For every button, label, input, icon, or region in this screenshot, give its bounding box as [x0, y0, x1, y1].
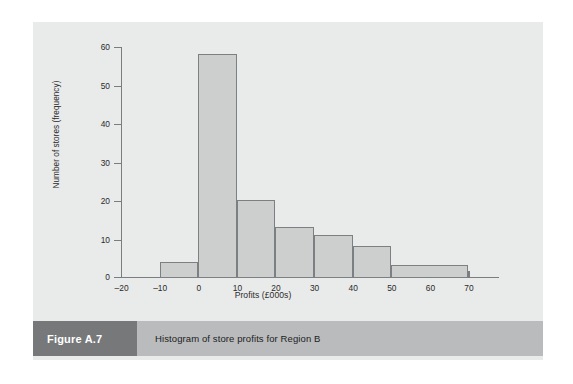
y-tick-label: 60 [88, 42, 110, 52]
figure-number-tag: Figure A.7 [33, 321, 137, 356]
y-tick-label: 0 [88, 272, 110, 282]
x-tick-mark [468, 271, 469, 278]
y-tick-mark [114, 86, 121, 87]
y-tick-label: 20 [88, 196, 110, 206]
y-tick-mark [114, 240, 121, 241]
figure-panel: 60 50 40 30 20 10 0 –20 –10 0 10 20 30 4… [33, 22, 543, 360]
histogram-bar [391, 265, 468, 278]
y-tick-mark [114, 163, 121, 164]
x-tick-mark [121, 271, 122, 278]
figure-caption-strip: Figure A.7 Histogram of store profits fo… [33, 321, 543, 356]
y-tick-mark [114, 47, 121, 48]
histogram-bar [314, 235, 353, 278]
y-tick-mark [114, 277, 121, 278]
figure-caption-text: Histogram of store profits for Region B [137, 321, 543, 356]
histogram-plot: 60 50 40 30 20 10 0 –20 –10 0 10 20 30 4… [33, 22, 543, 316]
y-tick-mark [114, 124, 121, 125]
y-tick-label: 30 [88, 158, 110, 168]
y-axis-line [121, 47, 122, 278]
y-tick-mark [114, 201, 121, 202]
histogram-bar [275, 227, 314, 278]
x-axis-title: Profits (£000s) [33, 290, 493, 300]
y-tick-label: 40 [88, 119, 110, 129]
histogram-bar [198, 54, 237, 278]
histogram-bar [353, 246, 392, 278]
y-axis-title: Number of stores (frequency) [52, 50, 61, 220]
histogram-bar [237, 200, 276, 278]
y-tick-label: 10 [88, 235, 110, 245]
histogram-bar [160, 262, 199, 278]
y-tick-label: 50 [88, 81, 110, 91]
